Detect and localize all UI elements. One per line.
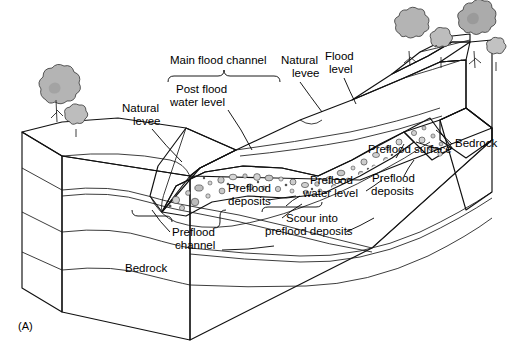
label-bedrock-left: Bedrock — [125, 262, 167, 274]
label-scour-into-line2: preflood deposits — [265, 225, 353, 237]
label-main-flood-channel: Main flood channel — [170, 54, 267, 66]
label-scour-into-line1: Scour into — [286, 212, 338, 224]
block-diagram: Main flood channel Post flood water leve… — [0, 0, 519, 346]
label-natural-levee-right-line1: Natural — [281, 54, 318, 66]
canvas-background — [0, 0, 519, 346]
label-natural-levee-left-line1: Natural — [122, 102, 159, 114]
label-preflood-channel-line2: channel — [175, 239, 215, 251]
label-preflood-channel-line1: Preflood — [172, 226, 215, 238]
label-preflood-water-level-line2: water level — [302, 187, 358, 199]
label-natural-levee-left-line2: levee — [133, 115, 161, 127]
label-preflood-water-level-line1: Preflood — [310, 174, 353, 186]
label-flood-level-line1: Flood — [325, 50, 354, 62]
label-preflood-surface: Preflood surface — [368, 143, 452, 155]
label-preflood-deposits-right-line1: Preflood — [372, 172, 415, 184]
label-preflood-deposits-left-line1: Preflood — [228, 182, 271, 194]
figure-container: Main flood channel Post flood water leve… — [0, 0, 519, 346]
label-bedrock-right: Bedrock — [455, 137, 497, 149]
label-natural-levee-right-line2: levee — [292, 67, 320, 79]
label-flood-level-line2: level — [329, 63, 353, 75]
label-preflood-deposits-left-line2: deposits — [228, 195, 271, 207]
label-post-flood-water-level-line1: Post flood — [176, 83, 227, 95]
label-preflood-deposits-right-line2: deposits — [371, 185, 414, 197]
label-post-flood-water-level-line2: water level — [169, 96, 225, 108]
figure-id-label: (A) — [18, 320, 33, 332]
